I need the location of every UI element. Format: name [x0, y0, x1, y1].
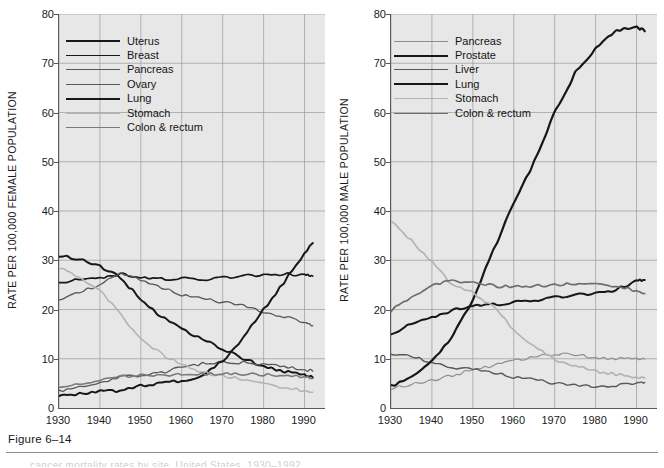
series-line-lung: [59, 243, 313, 396]
x-tick-label: 1960: [169, 414, 193, 426]
figure-page: RATE PER 100,000 FEMALE POPULATION 01020…: [0, 0, 664, 468]
y-tick-label: 50: [20, 156, 54, 168]
legend-label: Pancreas: [127, 64, 173, 75]
x-axis-ticks-male: 1930194019501960197019801990: [332, 414, 664, 430]
y-tick-label: 80: [20, 8, 54, 20]
legend-male: PancreasProstateLiverLungStomachColon & …: [394, 34, 531, 120]
y-tick-label: 40: [20, 205, 54, 217]
x-tick-label: 1960: [501, 414, 525, 426]
legend-label: Lung: [127, 93, 151, 104]
series-line-pancreas: [59, 273, 313, 326]
x-tick-label: 1950: [128, 414, 152, 426]
series-line-stomach: [391, 221, 645, 378]
legend-label: Ovary: [127, 79, 156, 90]
legend-item-lung[interactable]: Lung: [394, 77, 531, 91]
x-axis-ticks-female: 1930194019501960197019801990: [0, 414, 332, 430]
y-tick-label: 80: [352, 8, 386, 20]
legend-label: Stomach: [127, 108, 170, 119]
legend-item-ovary[interactable]: Ovary: [66, 77, 203, 91]
y-tick-label: 30: [352, 254, 386, 266]
legend-label: Liver: [455, 64, 479, 75]
y-tick-label: 0: [20, 402, 54, 414]
y-axis-ticks-female: 01020304050607080: [18, 0, 54, 396]
legend-swatch-line: [66, 55, 120, 56]
y-tick-label: 0: [352, 402, 386, 414]
legend-item-liver[interactable]: Liver: [394, 63, 531, 77]
series-line-breast: [59, 273, 313, 283]
legend-swatch-line: [66, 98, 120, 100]
legend-item-pancreas[interactable]: Pancreas: [394, 34, 531, 48]
legend-item-breast[interactable]: Breast: [66, 48, 203, 62]
y-tick-label: 20: [20, 304, 54, 316]
y-tick-label: 70: [20, 57, 54, 69]
y-tick-label: 70: [352, 57, 386, 69]
x-tick-label: 1970: [209, 414, 233, 426]
y-tick-label: 40: [352, 205, 386, 217]
legend-swatch-line: [66, 40, 120, 42]
x-tick-label: 1930: [378, 414, 402, 426]
legend-label: Stomach: [455, 93, 498, 104]
legend-item-prostate[interactable]: Prostate: [394, 48, 531, 62]
legend-label: Colon & rectum: [455, 108, 531, 119]
legend-swatch-line: [66, 84, 120, 85]
legend-swatch-line: [66, 69, 120, 70]
legend-female: UterusBreastPancreasOvaryLungStomachColo…: [66, 34, 203, 135]
legend-item-uterus[interactable]: Uterus: [66, 34, 203, 48]
legend-swatch-line: [66, 127, 120, 128]
footer-text-sliver: cancer mortality rates by site, United S…: [30, 460, 630, 467]
horizontal-rule: [6, 452, 658, 453]
y-tick-label: 10: [352, 353, 386, 365]
legend-swatch-line: [394, 83, 448, 85]
x-tick-label: 1980: [582, 414, 606, 426]
legend-swatch-line: [66, 113, 120, 114]
legend-item-colon-rectum[interactable]: Colon & rectum: [66, 120, 203, 134]
x-tick-label: 1940: [87, 414, 111, 426]
y-axis-ticks-male: 01020304050607080: [350, 0, 386, 396]
chart-panel-female: RATE PER 100,000 FEMALE POPULATION 01020…: [0, 0, 332, 430]
legend-item-pancreas[interactable]: Pancreas: [66, 63, 203, 77]
y-tick-label: 20: [352, 304, 386, 316]
y-tick-label: 50: [352, 156, 386, 168]
x-tick-label: 1930: [46, 414, 70, 426]
legend-swatch-line: [394, 41, 448, 42]
y-tick-label: 10: [20, 353, 54, 365]
x-tick-label: 1950: [460, 414, 484, 426]
legend-label: Colon & rectum: [127, 122, 203, 133]
legend-item-lung[interactable]: Lung: [66, 92, 203, 106]
legend-swatch-line: [394, 69, 448, 70]
x-tick-label: 1970: [541, 414, 565, 426]
y-tick-label: 30: [20, 254, 54, 266]
figure-caption: Figure 6–14: [8, 433, 72, 445]
chart-panel-male: RATE PER 100,000 MALE POPULATION 0102030…: [332, 0, 664, 430]
legend-swatch-line: [394, 55, 448, 57]
legend-label: Prostate: [455, 50, 496, 61]
legend-item-stomach[interactable]: Stomach: [66, 106, 203, 120]
x-tick-label: 1940: [419, 414, 443, 426]
legend-label: Uterus: [127, 36, 159, 47]
legend-label: Pancreas: [455, 36, 501, 47]
y-tick-label: 60: [352, 107, 386, 119]
x-tick-label: 1980: [250, 414, 274, 426]
x-tick-label: 1990: [291, 414, 315, 426]
legend-swatch-line: [394, 98, 448, 99]
x-tick-label: 1990: [623, 414, 647, 426]
legend-item-colon-rectum[interactable]: Colon & rectum: [394, 106, 531, 120]
series-line-colon-rectum: [391, 280, 645, 312]
legend-item-stomach[interactable]: Stomach: [394, 92, 531, 106]
legend-label: Breast: [127, 50, 159, 61]
y-tick-label: 60: [20, 107, 54, 119]
legend-label: Lung: [455, 79, 479, 90]
legend-swatch-line: [394, 113, 448, 114]
